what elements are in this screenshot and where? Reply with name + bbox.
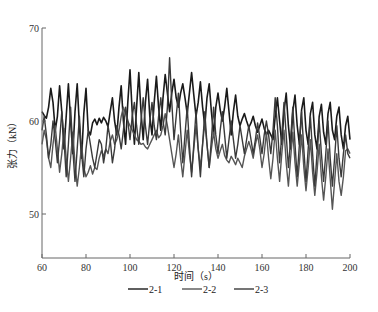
legend-item-2-3: 2-3 [234, 284, 268, 295]
x-tick-label: 60 [37, 262, 47, 273]
y-tick-label: 70 [29, 23, 39, 34]
x-tick-label: 100 [123, 262, 138, 273]
x-tick-label: 180 [299, 262, 314, 273]
legend-label: 2-2 [203, 284, 216, 295]
x-tick-label: 160 [255, 262, 270, 273]
legend-label: 2-1 [149, 284, 162, 295]
x-axis-title: 时间（s） [174, 270, 218, 282]
legend: 2-12-22-3 [128, 284, 268, 295]
y-ticks: 506070 [29, 23, 46, 220]
x-tick-label: 200 [343, 262, 358, 273]
x-tick-label: 80 [81, 262, 91, 273]
legend-item-2-2: 2-2 [182, 284, 216, 295]
plot-area [42, 58, 350, 210]
y-tick-label: 50 [29, 209, 39, 220]
y-tick-label: 60 [29, 116, 39, 127]
legend-item-2-1: 2-1 [128, 284, 162, 295]
legend-label: 2-3 [255, 284, 268, 295]
y-axis-title: 张力（kN） [6, 117, 18, 169]
line-chart: 506070 6080100120140160180200 张力（kN） 时间（… [0, 0, 378, 312]
